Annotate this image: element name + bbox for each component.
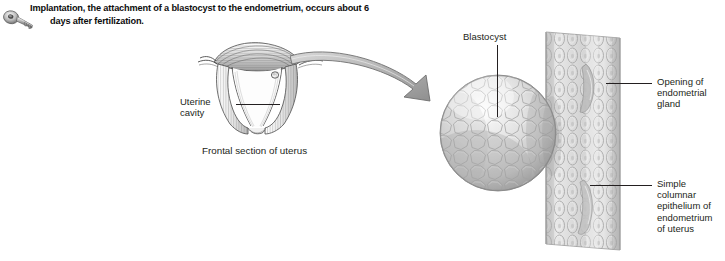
leader-uterine-cavity [236, 104, 280, 105]
figure-implantation: Implantation, the attachment of a blasto… [0, 0, 725, 261]
blastocyst-implantation-illustration [436, 30, 636, 258]
leader-simple-columnar [590, 185, 652, 186]
figure-header-text: Implantation, the attachment of a blasto… [30, 2, 430, 27]
caption-frontal-section: Frontal section of uterus [202, 145, 307, 156]
label-uterine-cavity: Uterine cavity [180, 96, 236, 118]
leader-gland-opening [606, 83, 652, 84]
figure-header: Implantation, the attachment of a blasto… [0, 2, 430, 36]
header-line-1: Implantation, the attachment of a blasto… [30, 3, 369, 13]
header-line-2: days after fertilization. [30, 15, 430, 28]
leader-blastocyst [497, 45, 498, 117]
label-simple-columnar-epithelium: Simple columnar epithelium of endometriu… [657, 178, 723, 234]
label-blastocyst: Blastocyst [463, 31, 506, 42]
label-opening-of-endometrial-gland: Opening of endometrial gland [657, 76, 723, 110]
magnification-arrow [290, 48, 450, 108]
